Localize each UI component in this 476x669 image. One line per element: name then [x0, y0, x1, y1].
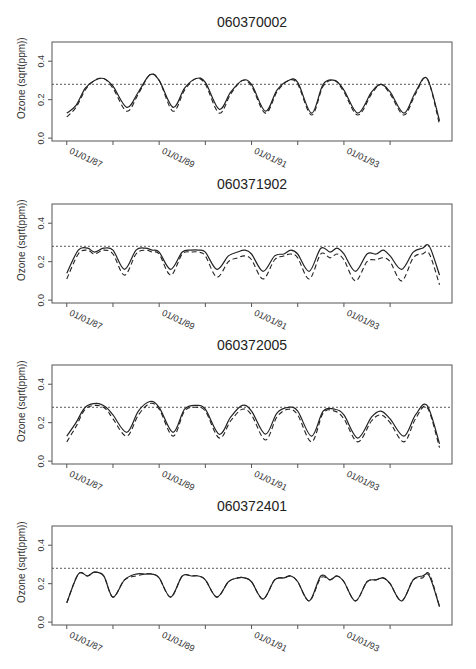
y-axis-label: Ozone (sqrt(ppm)) [16, 360, 27, 442]
plot-frame [52, 526, 452, 625]
y-tick-label: 0.0 [36, 132, 46, 145]
dashed-series-line [67, 74, 440, 125]
x-tick-label: 01/01/87 [68, 146, 104, 170]
y-tick-label: 0.4 [36, 217, 46, 230]
x-tick-label: 01/01/93 [345, 630, 381, 654]
plot-frame [52, 42, 452, 141]
x-tick-label: 01/01/93 [345, 146, 381, 170]
y-tick-label: 0.4 [36, 55, 46, 68]
x-tick-label: 01/01/93 [345, 469, 381, 493]
dashed-series-line [67, 403, 440, 448]
plot-area: 0.00.20.401/01/8701/01/8901/01/9101/01/9… [0, 176, 476, 338]
y-axis-label: Ozone (sqrt(ppm)) [16, 37, 27, 119]
y-tick-label: 0.2 [36, 93, 46, 106]
y-tick-label: 0.2 [36, 416, 46, 429]
x-tick-label: 01/01/87 [68, 308, 104, 332]
x-tick-label: 01/01/93 [345, 308, 381, 332]
x-tick-label: 01/01/89 [160, 308, 196, 332]
plot-area: 0.00.20.401/01/8701/01/8901/01/9101/01/9… [0, 498, 476, 660]
y-tick-label: 0.4 [36, 539, 46, 552]
y-tick-label: 0.0 [36, 294, 46, 307]
chart-panel-060372005: 060372005 0.00.20.401/01/8701/01/8901/01… [0, 337, 476, 499]
y-tick-label: 0.2 [36, 577, 46, 590]
solid-series-line [67, 572, 440, 607]
y-axis-label: Ozone (sqrt(ppm)) [16, 521, 27, 603]
x-tick-label: 01/01/87 [68, 469, 104, 493]
x-tick-label: 01/01/87 [68, 630, 104, 654]
solid-series-line [67, 245, 440, 276]
y-tick-label: 0.2 [36, 255, 46, 268]
plot-area: 0.00.20.401/01/8701/01/8901/01/9101/01/9… [0, 14, 476, 176]
y-tick-label: 0.0 [36, 616, 46, 629]
chart-panel-060371902: 060371902 0.00.20.401/01/8701/01/8901/01… [0, 176, 476, 338]
y-tick-label: 0.4 [36, 378, 46, 391]
dashed-series-line [67, 572, 440, 607]
x-tick-label: 01/01/91 [253, 469, 289, 493]
x-tick-label: 01/01/89 [160, 630, 196, 654]
chart-panel-060370002: 060370002 0.00.20.401/01/8701/01/8901/01… [0, 14, 476, 176]
chart-panel-060372401: 060372401 0.00.20.401/01/8701/01/8901/01… [0, 498, 476, 660]
x-tick-label: 01/01/89 [160, 469, 196, 493]
y-axis-label: Ozone (sqrt(ppm)) [16, 199, 27, 281]
x-tick-label: 01/01/91 [253, 308, 289, 332]
y-tick-label: 0.0 [36, 455, 46, 468]
x-tick-label: 01/01/91 [253, 630, 289, 654]
solid-series-line [67, 74, 440, 121]
plot-area: 0.00.20.401/01/8701/01/8901/01/9101/01/9… [0, 337, 476, 499]
x-tick-label: 01/01/89 [160, 146, 196, 170]
x-tick-label: 01/01/91 [253, 146, 289, 170]
